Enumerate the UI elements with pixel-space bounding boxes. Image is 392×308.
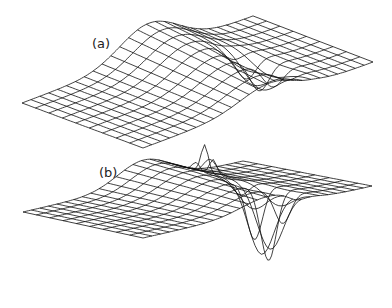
surface-plot-b <box>23 145 372 261</box>
surface-plot-a <box>22 16 373 148</box>
wireframe-mesh-a <box>22 16 373 148</box>
panel-label-b: (b) <box>99 166 117 179</box>
surface-plots <box>0 0 392 308</box>
wireframe-mesh-b <box>23 145 372 261</box>
panel-label-a: (a) <box>92 37 110 50</box>
wireframe-figure: (a) (b) <box>0 0 392 308</box>
